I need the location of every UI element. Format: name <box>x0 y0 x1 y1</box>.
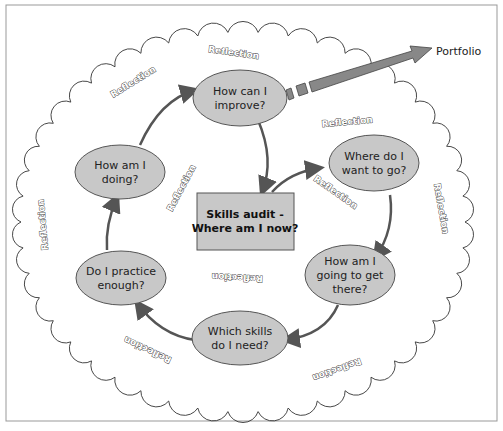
svg-text:want to go?: want to go? <box>342 164 407 177</box>
diagram-canvas: Portfolio How can I improve? Where do I … <box>0 0 503 431</box>
svg-text:Where am I now?: Where am I now? <box>192 222 299 235</box>
svg-text:How am I: How am I <box>324 255 376 268</box>
svg-text:improve?: improve? <box>215 99 266 112</box>
portfolio-label: Portfolio <box>436 45 482 58</box>
node-improve[interactable]: How can I improve? <box>193 70 287 126</box>
svg-text:How am I: How am I <box>94 159 146 172</box>
node-which-skills[interactable]: Which skills do I need? <box>192 311 288 365</box>
svg-text:Skills audit -: Skills audit - <box>206 208 283 221</box>
svg-text:doing?: doing? <box>102 173 139 186</box>
node-how-get-there[interactable]: How am I going to get there? <box>305 245 395 305</box>
svg-text:enough?: enough? <box>97 279 144 292</box>
node-doing[interactable]: How am I doing? <box>75 145 165 199</box>
svg-text:Which skills: Which skills <box>208 325 273 338</box>
node-practice[interactable]: Do I practice enough? <box>76 251 166 305</box>
svg-text:there?: there? <box>333 283 368 296</box>
svg-text:going to get: going to get <box>317 269 385 282</box>
svg-text:do I need?: do I need? <box>211 339 268 352</box>
skills-audit-diagram: Portfolio How can I improve? Where do I … <box>0 0 503 431</box>
node-where[interactable]: Where do I want to go? <box>329 135 419 191</box>
svg-text:How can I: How can I <box>213 85 267 98</box>
svg-text:Where do I: Where do I <box>344 150 404 163</box>
svg-text:Do I practice: Do I practice <box>86 265 156 278</box>
center-box-skills-audit[interactable]: Skills audit - Where am I now? <box>192 193 299 250</box>
